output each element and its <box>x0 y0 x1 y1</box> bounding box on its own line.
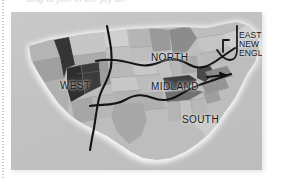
state-la <box>145 108 169 126</box>
dialect-map-panel: WEST NORTH MIDLAND SOUTH EASTERN NEW ENG… <box>11 12 262 170</box>
cutoff-caption-text: sing to join in the joy an <box>26 0 176 4</box>
cutoff-caption-sliver: sing to join in the joy an <box>26 0 176 5</box>
state-ia <box>131 60 157 76</box>
figure-root: sing to join in the joy an <box>0 0 282 178</box>
us-dialect-map-svg <box>11 12 262 170</box>
state-nd <box>103 30 129 48</box>
page-margin-rule <box>2 0 4 178</box>
state-mn <box>127 28 153 48</box>
state-ms <box>167 101 181 122</box>
state-ks <box>110 76 139 92</box>
state-al <box>179 100 193 120</box>
